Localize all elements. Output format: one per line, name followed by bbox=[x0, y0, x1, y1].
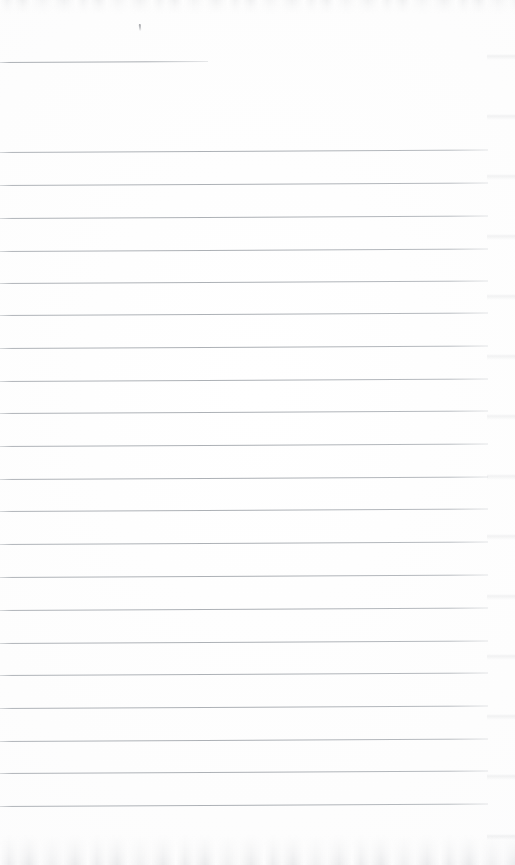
pencil-tick bbox=[139, 24, 141, 31]
scanned-page bbox=[0, 0, 515, 865]
scan-edge-bottom bbox=[0, 835, 515, 865]
scan-edge-top bbox=[0, 0, 515, 14]
right-margin-speckles bbox=[487, 0, 515, 865]
page-background bbox=[0, 0, 515, 865]
